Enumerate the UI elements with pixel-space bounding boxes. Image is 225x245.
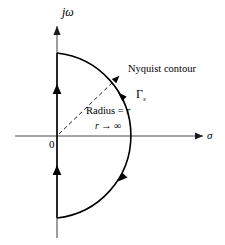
jomega-axis-label: jω	[62, 6, 74, 18]
gamma-subscript: s	[143, 95, 146, 103]
origin-label: 0	[49, 139, 55, 150]
radius-limit-label: r→∞	[95, 120, 121, 131]
nyquist-contour-figure: jω σ 0 Nyquist contour Γs Radius = r r→∞	[0, 0, 225, 245]
arc-upper-direction-arrowhead	[118, 92, 127, 101]
radius-label-text: Radius =	[86, 105, 126, 116]
jomega-axis-arrowhead	[53, 26, 60, 35]
right-arrow-icon: →	[99, 119, 114, 131]
sigma-axis-label: σ	[207, 130, 212, 141]
gamma-glyph: Γ	[136, 87, 143, 101]
radius-label-value: r	[126, 105, 130, 116]
limit-value: ∞	[114, 120, 121, 131]
nyquist-contour-label: Nyquist contour	[128, 64, 196, 75]
sigma-axis-arrowhead	[195, 133, 203, 140]
contour-upper-direction-arrowhead	[53, 84, 62, 94]
contour-symbol-label: Γs	[136, 88, 146, 103]
radius-label: Radius = r	[86, 106, 130, 117]
contour-lower-direction-arrowhead	[53, 165, 62, 175]
radius-arrowhead	[112, 76, 120, 84]
